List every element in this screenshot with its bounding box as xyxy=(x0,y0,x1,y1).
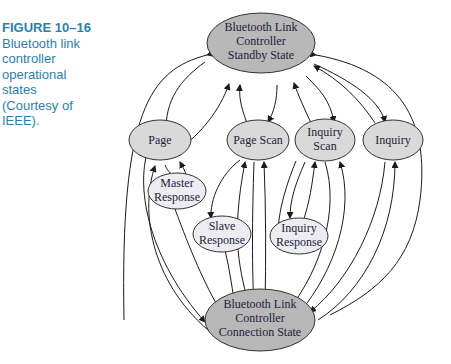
node-inquiry: Inquiry xyxy=(363,120,423,160)
svg-text:Response: Response xyxy=(276,235,322,249)
node-standby-state: Bluetooth Link Controller Standby State xyxy=(207,13,315,73)
node-page: Page xyxy=(129,120,191,160)
node-page-scan: Page Scan xyxy=(227,120,289,160)
svg-text:Inquiry: Inquiry xyxy=(307,125,342,139)
svg-text:Scan: Scan xyxy=(313,139,336,153)
node-inquiry-scan: Inquiry Scan xyxy=(295,119,355,161)
svg-text:Slave: Slave xyxy=(209,219,236,233)
node-inquiry-response: Inquiry Response xyxy=(270,218,328,254)
svg-text:Connection State: Connection State xyxy=(219,325,301,339)
svg-text:Page: Page xyxy=(148,133,171,147)
svg-text:Response: Response xyxy=(154,190,200,204)
svg-text:Bluetooth Link: Bluetooth Link xyxy=(224,297,297,311)
node-master-response: Master Response xyxy=(148,173,206,209)
svg-text:Master: Master xyxy=(160,176,193,190)
svg-text:Standby State: Standby State xyxy=(228,48,294,62)
node-connection-state: Bluetooth Link Controller Connection Sta… xyxy=(205,289,315,351)
svg-text:Controller: Controller xyxy=(236,34,285,48)
svg-text:Controller: Controller xyxy=(235,311,284,325)
node-slave-response: Slave Response xyxy=(193,216,251,252)
svg-text:Inquiry: Inquiry xyxy=(375,133,410,147)
svg-text:Inquiry: Inquiry xyxy=(281,221,316,235)
svg-text:Page Scan: Page Scan xyxy=(233,133,283,147)
svg-text:Response: Response xyxy=(199,233,245,247)
svg-text:Bluetooth Link: Bluetooth Link xyxy=(225,20,298,34)
state-diagram: Bluetooth Link Controller Standby State … xyxy=(0,0,451,364)
